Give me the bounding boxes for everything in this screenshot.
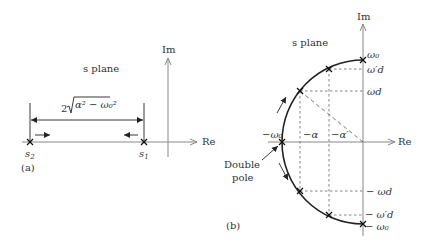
label-omega-d-prime-top: ω′d — [367, 64, 384, 75]
label-neg-alpha-prime: −α′ — [331, 129, 349, 140]
caption-a: (a) — [21, 162, 35, 173]
double-pole-label-line2: pole — [232, 172, 254, 183]
label-omega0-bottom: − ω₀ — [365, 221, 389, 232]
double-pole-label-line1: Double — [224, 159, 260, 170]
label-omega0-top: ω₀ — [367, 49, 379, 60]
re-label-a: Re — [202, 136, 216, 147]
caption-b: (b) — [226, 220, 240, 231]
panel-a: Im Re s plane 2 α² − ω₀² s2 s1 (a) — [21, 44, 216, 173]
panel-b: Im Re s plane — [224, 11, 412, 236]
double-pole-pointer — [262, 146, 278, 160]
root-locus-diagram: Im Re s plane 2 α² − ω₀² s2 s1 (a) Im — [0, 0, 424, 243]
s-plane-label-b: s plane — [292, 37, 328, 48]
re-label-b: Re — [398, 136, 412, 147]
label-omega-d-top: ωd — [367, 86, 382, 97]
pole-s2-label: s2 — [25, 148, 35, 161]
arrow-upper-arc — [277, 97, 286, 113]
svg-text:α² − ω₀²: α² − ω₀² — [75, 99, 117, 110]
label-neg-omega0: −ω₀ — [262, 129, 283, 140]
label-neg-alpha: −α — [303, 129, 318, 140]
pole-s1-label: s1 — [139, 148, 149, 161]
s-plane-label-a: s plane — [83, 63, 119, 74]
label-omega-d-bottom: − ωd — [366, 186, 392, 197]
distance-label: 2 α² − ω₀² — [61, 97, 117, 114]
im-label-b: Im — [357, 11, 371, 22]
svg-text:2: 2 — [61, 103, 67, 114]
label-omega-d-prime-bottom: − ω′d — [365, 209, 393, 220]
im-label-a: Im — [162, 44, 176, 55]
